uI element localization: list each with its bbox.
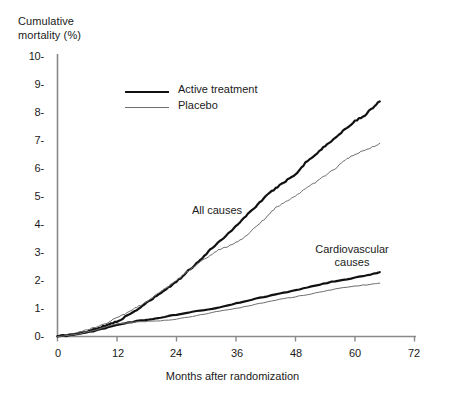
- chart-curves: [58, 101, 380, 336]
- chart-plot-area: [0, 0, 465, 402]
- axis-lines: [58, 54, 417, 337]
- curve-all-causes-active-treatment: [58, 101, 380, 336]
- chart-figure: Cumulative mortality (%) 10- 9- 8- 7- 6-…: [0, 0, 465, 402]
